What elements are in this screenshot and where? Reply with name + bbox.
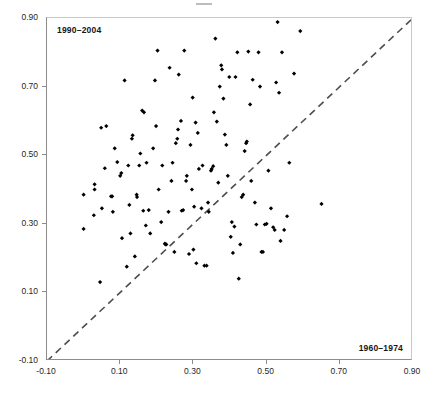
x-tick-mark-0.50 [266,360,267,364]
data-point [147,208,151,212]
data-point [131,133,135,137]
data-point [246,50,250,54]
data-point [200,163,204,167]
data-point [298,29,302,33]
data-point [229,235,233,239]
data-point [285,214,289,218]
data-point [232,224,236,228]
data-point [182,48,186,52]
data-point [254,222,258,226]
data-point [278,239,282,243]
data-point [82,227,86,231]
x-tick-label-0.90: 0.90 [404,366,421,376]
x-tick-label-0.30: 0.30 [184,366,201,376]
data-point [204,264,208,268]
data-point [238,242,242,246]
data-point [223,133,227,137]
data-point [103,166,107,170]
data-point [226,174,230,178]
data-point [179,119,183,123]
data-point [155,48,159,52]
reference-line [47,18,412,360]
data-point [141,209,145,213]
data-point [216,181,220,185]
data-point [197,167,201,171]
data-point [319,202,323,206]
data-point [191,247,195,251]
identity-reference-line [47,18,412,360]
data-point [125,265,129,269]
y-tick-label--0.10: -0.10 [4,355,38,365]
data-point [220,67,224,71]
data-point [113,146,117,150]
data-point [104,124,108,128]
data-point [176,127,180,131]
data-point [137,163,141,167]
x-series-label: 1960–1974 [359,343,403,353]
x-tick-label-0.50: 0.50 [257,366,274,376]
data-point [177,72,181,76]
data-point [92,187,96,191]
data-point [221,97,225,101]
data-points-group [82,20,324,284]
data-point [218,85,222,89]
data-point [190,187,194,191]
data-point [100,206,104,210]
data-point [160,163,164,167]
data-point [258,85,262,89]
data-point [82,193,86,197]
data-point [153,78,157,82]
data-point [287,161,291,165]
y-series-label: 1990–2004 [57,25,101,35]
data-point [133,254,137,258]
data-point [193,121,197,125]
data-point [196,131,200,135]
data-point [187,252,191,256]
data-point [138,151,142,155]
data-point [292,71,296,75]
data-point [191,95,195,99]
data-point [224,143,228,147]
data-point [148,231,152,235]
data-point [157,187,161,191]
data-point [98,280,102,284]
x-tick-label-0.70: 0.70 [331,366,348,376]
x-tick-mark-0.70 [339,360,340,364]
data-point [256,50,260,54]
data-point [128,231,132,235]
data-point [235,50,239,54]
data-point [127,203,131,207]
x-tick-mark-0.10 [119,360,120,364]
data-point [206,200,210,204]
y-tick-label-0.50: 0.50 [4,149,38,159]
data-point [251,78,255,82]
data-point [230,220,234,224]
data-point [243,149,247,153]
data-point [174,141,178,145]
data-point [115,160,119,164]
data-point [184,179,188,183]
scatter-series-canvas [47,18,412,360]
x-tick-label-0.10: 0.10 [111,366,128,376]
data-point [111,210,115,214]
data-point [130,137,134,141]
data-point [266,169,270,173]
data-point [122,78,126,82]
data-point [188,143,192,147]
data-point [169,179,173,183]
y-tick-label-0.10: 0.10 [4,286,38,296]
data-point [151,146,155,150]
data-point [120,236,124,240]
data-point [277,91,281,95]
plot-area: 1990–2004 1960–1974 [46,17,412,360]
data-point [274,80,278,84]
data-point [92,182,96,186]
data-point [231,251,235,255]
data-point [170,161,174,165]
data-point [159,220,163,224]
data-point [192,205,196,209]
data-point [233,75,237,79]
data-point [172,250,176,254]
data-point [144,161,148,165]
data-point [168,66,172,70]
